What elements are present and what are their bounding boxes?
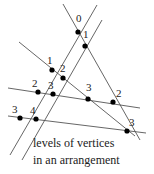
vertex-level-label: 1 [47,54,53,66]
vertex-level-label: 3 [12,103,18,115]
caption-line-2: in an arrangement [33,152,120,168]
caption-line-1: levels of vertices [33,135,114,151]
vertex-8 [17,115,22,120]
vertex-1 [82,43,87,48]
vertex-level-label: 2 [32,77,38,89]
vertex-6 [85,96,90,101]
vertex-5 [50,91,55,96]
vertex-level-label: 3 [86,81,92,93]
vertex-2 [49,67,54,72]
vertex-4 [35,89,40,94]
vertex-level-label: 2 [116,87,122,99]
vertex-3 [60,75,65,80]
vertex-level-label: 3 [48,79,54,91]
vertex-level-label: 2 [60,62,66,74]
vertex-level-label: 4 [30,104,36,116]
vertex-level-label: 1 [83,28,89,40]
vertex-9 [33,116,38,121]
vertex-7 [110,99,115,104]
vertex-level-label: 3 [129,116,135,128]
vertex-0 [75,29,80,34]
vertex-10 [124,128,129,133]
vertex-level-label: 0 [76,12,82,24]
